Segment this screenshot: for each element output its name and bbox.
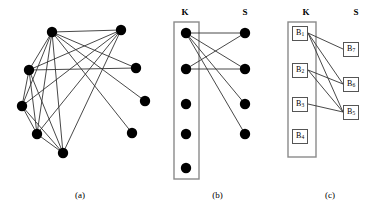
graph-vertex [116, 25, 126, 35]
block-node-subscript: 4 [302, 135, 305, 141]
block-node-subscript: 7 [353, 48, 356, 54]
graph-vertex [240, 99, 250, 109]
graph-vertex [181, 64, 191, 74]
block-node-subscript: 3 [302, 103, 305, 109]
graph-edge [29, 68, 136, 70]
graph-vertex [140, 96, 150, 106]
block-node-subscript: 1 [302, 32, 305, 38]
graph-edge [52, 32, 63, 153]
graph-vertex [24, 65, 34, 75]
block-node-label: B [296, 29, 301, 37]
block-node-label: B [347, 80, 352, 88]
panel-b-graph [160, 0, 275, 180]
graph-vertex [58, 148, 68, 158]
block-node-b7: B7 [343, 42, 359, 57]
block-node-b2: B2 [292, 63, 308, 78]
block-node-b3: B3 [292, 97, 308, 112]
graph-edge [52, 32, 136, 68]
graph-edge [186, 33, 245, 104]
graph-edge [29, 30, 121, 70]
panel-b: K S (b) [160, 0, 275, 210]
block-node-label: B [347, 45, 352, 53]
graph-vertex [181, 163, 191, 173]
graph-edge [29, 32, 52, 70]
panel-c: K S B1B2B3B4B7B6B5 (c) [275, 0, 385, 210]
graph-edge [22, 70, 29, 106]
block-node-label: B [296, 66, 301, 74]
graph-vertex [32, 129, 42, 139]
graph-edge [22, 106, 63, 153]
graph-edge [22, 30, 121, 106]
graph-vertex [240, 28, 250, 38]
panel-a: (a) [0, 0, 160, 210]
block-node-subscript: 6 [353, 83, 356, 89]
panel-a-graph [0, 0, 160, 180]
block-node-b6: B6 [343, 77, 359, 92]
figure-container: (a) K S (b) K S B1B2B3B4B7B6B5 (c) [0, 0, 385, 210]
block-node-label: B [296, 100, 301, 108]
graph-edge [52, 30, 121, 32]
graph-vertex [127, 128, 137, 138]
graph-vertex [47, 27, 57, 37]
block-node-subscript: 5 [353, 111, 356, 117]
graph-edge [186, 33, 245, 134]
panel-c-caption: (c) [275, 191, 385, 200]
graph-vertex [17, 101, 27, 111]
block-node-label: B [296, 132, 301, 140]
block-node-b4: B4 [292, 129, 308, 144]
graph-vertex [131, 63, 141, 73]
graph-vertex [181, 99, 191, 109]
graph-vertex [181, 28, 191, 38]
block-node-label: B [347, 108, 352, 116]
panel-a-caption: (a) [0, 191, 160, 200]
graph-vertex [240, 64, 250, 74]
graph-vertex [181, 129, 191, 139]
block-node-subscript: 2 [302, 69, 305, 75]
block-node-b1: B1 [292, 26, 308, 41]
panel-b-caption: (b) [160, 191, 275, 200]
block-node-b5: B5 [343, 105, 359, 120]
graph-vertex [240, 129, 250, 139]
